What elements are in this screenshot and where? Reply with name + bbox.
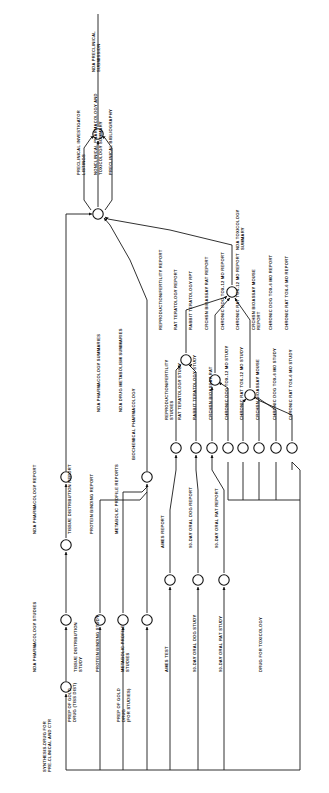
event-circle [61,615,71,625]
network-event-node [61,540,71,550]
activity-label-line: CHRONIC RAT TOX-12 MO REPORT [235,253,240,330]
activity-label: AMES REPORT [160,515,165,548]
activity-label-line: CRCHSN BIOASSAY MOUSE [255,359,260,420]
activity-label-line: RAT TERATOLOGY STUDY [177,363,182,420]
activity-label-line: CHRONIC DOG TOX-6 MO STUDY [272,348,277,420]
pert-network-diagram: SYNTHESIS-DRUG FORPRE-CLINICAL AND CTRPR… [0,0,329,793]
activity-label: CHRONIC DOG TOX-12 MO REPORT [220,252,225,330]
event-circle [245,390,255,400]
event-circle [271,443,281,453]
activity-label-line: AMES REPORT [160,515,165,548]
activity-label: REPRODUCTION/FERTILITYSTUDIES [164,359,174,420]
label-layer: SYNTHESIS-DRUG FORPRE-CLINICAL AND CTRPR… [32,31,293,772]
activity-label: RABBIT TERATOLOGY STUDY [192,355,197,420]
activity-label: DRUG FOR TOXICOLOGY [258,617,263,672]
activity-label-line: CHRONIC RAT TOX-12 MO STUDY [239,347,244,420]
network-event-node [191,443,201,453]
event-circle [142,615,152,625]
activity-label-line: LISTINGS [81,154,86,175]
event-circle [223,443,233,453]
activity-label-line: METABOLIC PROFILE REPORTS [114,464,119,534]
event-circle [238,443,248,453]
activity-label-line: CHRONIC RAT TOX-6 MO REPORT [284,256,289,330]
event-circle [193,575,203,585]
activity-label-line: STUDY [78,657,83,672]
activity-label: NDA TOXICOLOGYSUMMARY [235,209,245,250]
activity-label: CRCHSN BIOASSAY RAT REPORT [204,256,209,330]
activity-label-line: CHRONIC DOG TOX-12 MO REPORT [220,252,225,330]
event-circle [61,540,71,550]
network-event-node [245,390,255,400]
activity-label-line: (FOR STUDIES) [126,688,131,722]
activity-label: NDA DRUG METABOLISM SUMMARIES [118,328,123,412]
activity-label-line: NDA PHARMACOLOGY SUMMARIES [96,334,101,412]
network-event-node [238,443,248,453]
network-event-node [254,443,264,453]
activity-label-line: PRECLINICAL BIBLIOGRAPHY [108,109,113,175]
activity-label: TISSUE DISTRIBUTION REPORT [67,464,72,534]
activity-label: CRCHSN BIOASSAY MOUSEREPORT [251,269,261,330]
event-circle [181,355,191,365]
activity-label: REPRODUCTION/FERTILITY REPORT [158,249,163,330]
activity-label-line: CRCHSN BIOASSAY RAT REPORT [204,256,209,330]
event-circle [142,472,152,482]
network-event-node [181,355,191,365]
event-circle [219,575,229,585]
network-event-node [207,443,217,453]
activity-label-line: 90-DAY ORAL DOG STUDY [192,614,197,672]
activity-label-line: SUBMISSION [96,44,101,72]
network-event-node [219,575,229,585]
activity-label: CRCHSN BIOASSAY MOUSE [255,359,260,420]
activity-label-line: CHRONIC DOG TOX-12 MO STUDY [224,346,229,420]
activity-label: CHRONIC DOG TOX-6 MO REPORT [268,254,273,330]
activity-label-line: NDA DRUG METABOLISM SUMMARIES [118,328,123,412]
activity-label: NDA PHARMACOLOGY REPORT [32,464,37,534]
diagram-canvas: SYNTHESIS-DRUG FORPRE-CLINICAL AND CTRPR… [0,0,329,793]
event-circle [93,209,103,219]
activity-label-line: REPORT [256,311,261,330]
activity-label: NDA PHARMACOLOGY STUDIES [32,602,37,672]
activity-label: PRECLINICAL INVESTIGATORLISTINGS [76,110,86,175]
activity-label-line: STUDIES [125,652,130,672]
activity-label: CHRONIC DOG TOX-6 MO STUDY [272,348,277,420]
activity-label: PRECLINICAL BIBLIOGRAPHY [108,109,113,175]
event-circle [118,615,128,625]
activity-label-line: REPRODUCTION/FERTILITY REPORT [158,249,163,330]
activity-label: SYNTHESIS-DRUG FORPRE-CLINICAL AND CTR [42,719,52,772]
activity-label-line: TOXICOLOGY SUMMARY [98,121,103,175]
activity-label: 90-DAY ORAL DOG REPORT [188,487,193,548]
event-circle [165,575,175,585]
network-event-node [93,209,103,219]
event-circle [287,443,297,453]
activity-label: PROTEIN BINDING STUDY [95,615,100,672]
network-event-node [165,575,175,585]
activity-label: CHRONIC DOG TOX-12 MO STUDY [224,346,229,420]
activity-label-line: DRUG (TISS DIST) [72,682,77,722]
activity-label-line: RAT TERATOLOGY REPORT [173,269,178,330]
network-event-node [223,443,233,453]
activity-label-line: STUDIES [169,400,174,420]
activity-label: METABOLIC PROFILE REPORTS [114,464,119,534]
activity-label-line: DRUG FOR TOXICOLOGY [258,617,263,672]
activity-label: RABBIT TERATOLOGY RPT [188,271,193,330]
activity-label-line: RABBIT TERATOLOGY RPT [188,271,193,330]
event-circle [207,443,217,453]
activity-label-line: CHRONIC DOG TOX-6 MO REPORT [268,254,273,330]
activity-label-line: PROTEIN BINDING REPORT [89,473,94,534]
activity-label: RAT TERATOLOGY STUDY [177,363,182,420]
activity-label: 90-DAY ORAL RAT REPORT [214,488,219,548]
activity-label-line: 90-DAY ORAL RAT STUDY [218,616,223,672]
activity-label-line: TISSUE DISTRIBUTION REPORT [67,464,72,534]
activity-label: NDA PRECLINICALSUBMISSION [91,31,101,72]
event-circle [254,443,264,453]
network-event-node [142,472,152,482]
activity-label: METABOLIC PROFILESTUDIES [120,625,130,672]
event-circle [171,443,181,453]
event-circle [191,443,201,453]
network-event-node [171,443,181,453]
activity-label: RAT TERATOLOGY REPORT [173,269,178,330]
activity-label-line: PRE-CLINICAL AND CTR [47,719,52,772]
activity-label: NDA PHARMACOLOGY SUMMARIES [96,334,101,412]
activity-label-line: BIOCHEMICAL PHARMACOLOGY [131,388,136,460]
activity-label: CRCHSN BIOASSAY RAT [208,366,213,420]
